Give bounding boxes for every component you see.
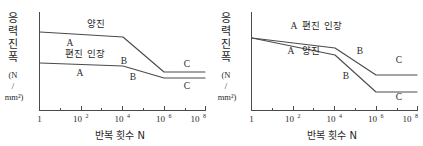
- y-label-char-3: 폭: [8, 51, 18, 64]
- y-unit-line-2: mm²): [5, 92, 24, 102]
- region-mark-upper-c-right: C: [396, 55, 402, 65]
- x-tick-label-0: 1: [37, 114, 42, 124]
- region-mark-lower-a-right: A: [288, 46, 295, 56]
- x-tick-exp-2: 4: [127, 113, 130, 119]
- y-label-char-1: 력: [8, 25, 18, 38]
- y-axis-label-right: 응 력 진 폭: [221, 12, 231, 64]
- region-mark-upper-b-left: B: [121, 56, 127, 66]
- series-label-lower-left: 편진 인장: [65, 48, 104, 59]
- y-unit-line-1: /: [12, 81, 15, 91]
- chart-right-svg: 응 력 진 폭 (N / mm²): [211, 0, 422, 146]
- chart-left-svg: 응 력 진 폭 (N / mm²): [0, 0, 211, 146]
- x-tick-exp-3: 6: [381, 113, 384, 119]
- y-label-char-2: 진: [221, 38, 231, 51]
- y-label-char-2: 진: [8, 38, 18, 51]
- y-axis-unit-right: (N / mm²): [218, 70, 237, 102]
- series-label-lower-right: 양진: [302, 45, 320, 56]
- region-mark-upper-b-right: B: [357, 46, 363, 56]
- x-tick-exp-4: 8: [203, 113, 206, 119]
- x-tick-exp-2: 4: [339, 113, 342, 119]
- x-tick-label-3: 10: [368, 114, 378, 124]
- region-mark-lower-b-right: B: [343, 71, 349, 81]
- y-axis-unit-left: (N / mm²): [5, 70, 24, 102]
- x-tick-label-1: 10: [73, 114, 83, 124]
- x-tick-label-0: 1: [249, 114, 254, 124]
- y-unit-line-2: mm²): [218, 92, 237, 102]
- region-mark-lower-b-left: B: [130, 72, 136, 82]
- y-unit-line-0: (N: [222, 70, 231, 80]
- x-tick-exp-4: 8: [415, 113, 418, 119]
- y-label-char-0: 응: [221, 12, 231, 25]
- series-label-upper-left: 양진: [87, 18, 105, 29]
- x-tick-label-3: 10: [156, 114, 166, 124]
- x-tick-label-1: 10: [285, 114, 295, 124]
- y-axis-label-left: 응 력 진 폭: [8, 12, 18, 64]
- x-tick-label-2: 10: [115, 114, 125, 124]
- x-tick-exp-1: 2: [86, 113, 89, 119]
- x-axis-title-right: 반복 횟수 N: [307, 130, 357, 141]
- region-mark-lower-c-right: C: [396, 92, 402, 102]
- x-ticks-left: [40, 106, 206, 111]
- chart-panel-left: 응 력 진 폭 (N / mm²): [0, 0, 211, 146]
- region-mark-upper-a-left: A: [67, 38, 74, 48]
- x-tick-label-4: 10: [191, 114, 201, 124]
- x-tick-exp-3: 6: [169, 113, 172, 119]
- x-tick-label-2: 10: [327, 114, 337, 124]
- curve-lower-right: [252, 38, 417, 92]
- x-axis-title-left: 반복 횟수 N: [95, 130, 145, 141]
- x-tick-labels-right: 1 10 2 10 4 10 6 10 8: [249, 113, 418, 124]
- region-mark-lower-a-left: A: [77, 68, 84, 78]
- series-label-upper-right: 편진 인장: [302, 20, 341, 31]
- region-mark-lower-c-left: C: [184, 81, 190, 91]
- x-ticks-right: [252, 106, 418, 111]
- y-label-char-1: 력: [221, 25, 231, 38]
- y-unit-line-1: /: [225, 81, 228, 91]
- x-tick-labels-left: 1 10 2 10 4 10 6 10 8: [37, 113, 206, 124]
- x-tick-exp-1: 2: [298, 113, 301, 119]
- chart-panel-right: 응 력 진 폭 (N / mm²): [211, 0, 422, 146]
- y-label-char-3: 폭: [221, 51, 231, 64]
- fatigue-curve-figure: 응 력 진 폭 (N / mm²): [0, 0, 423, 146]
- y-label-char-0: 응: [8, 12, 18, 25]
- region-mark-upper-c-left: C: [184, 59, 190, 69]
- region-mark-upper-a-right: A: [291, 21, 298, 31]
- y-unit-line-0: (N: [9, 70, 18, 80]
- x-tick-label-4: 10: [403, 114, 413, 124]
